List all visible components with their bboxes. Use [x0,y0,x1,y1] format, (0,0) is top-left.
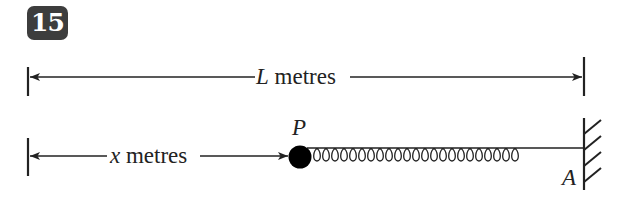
length-label: L metres [255,64,336,89]
distance-x-dimension: x metres [28,138,288,176]
wall-icon [584,118,601,190]
particle-label: P [291,115,306,140]
spring-icon [307,148,583,161]
anchor-label: A [560,165,577,190]
spring-diagram: L metres x metres P A [0,0,625,201]
particle-p-icon [289,146,312,169]
length-L-dimension: L metres [28,57,584,96]
distance-label: x metres [109,143,187,168]
